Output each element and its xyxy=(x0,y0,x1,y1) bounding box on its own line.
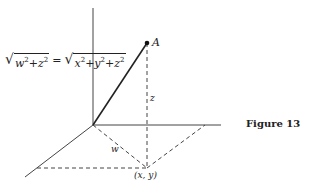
distance-equation: √ w2+z2 = √ x2+y2+z2 xyxy=(5,52,126,70)
dashed-w-line xyxy=(93,125,147,168)
rhs-radicand: x2+y2+z2 xyxy=(73,53,125,70)
diagram-canvas xyxy=(0,0,311,190)
label-z: z xyxy=(150,93,155,103)
depth-axis xyxy=(25,125,93,177)
dashed-y-projection xyxy=(147,125,205,168)
point-a-marker xyxy=(145,41,150,46)
figure-caption: Figure 13 xyxy=(246,118,300,129)
rhs-radical: √ x2+y2+z2 xyxy=(65,52,126,70)
lhs-radicand: w2+z2 xyxy=(14,53,49,70)
sqrt-symbol-icon: √ xyxy=(65,52,74,66)
sqrt-symbol-icon: √ xyxy=(5,52,14,66)
label-w: w xyxy=(111,144,119,154)
equals-sign: = xyxy=(52,54,61,67)
label-point-a: A xyxy=(152,36,160,49)
lhs-radical: √ w2+z2 xyxy=(5,52,49,70)
label-xy: (x, y) xyxy=(134,170,157,180)
